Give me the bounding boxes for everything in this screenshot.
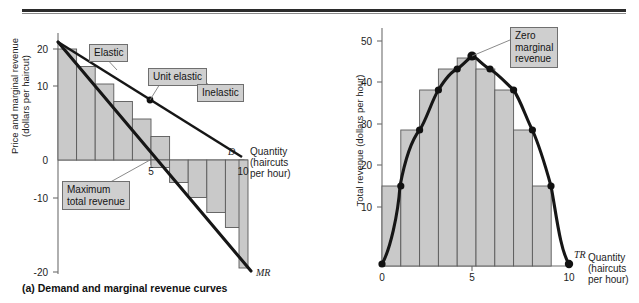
panel-a-ytick-10: 10 [37,81,49,92]
panel-a-x-axis-title: Quantity (haircuts per hour) [250,146,291,179]
panel-b-xtick-0: 0 [379,272,385,283]
panel-b-y-axis-title: Total revenue (dollars per hour) [354,46,365,236]
panel-a-demand-curve-label: D [227,146,236,157]
panel-a-mr-curve-label: MR [255,267,270,278]
callout-inelastic: Inelastic [197,84,244,102]
callout-zero-marginal-revenue: Zero marginal revenue [510,27,558,68]
panel-a-ytick-neg10: -10 [34,193,49,204]
panel-a-xtick-5: 5 [148,166,154,177]
panel-b-tr-curve-label: TR [574,249,586,260]
panel-a-demand-marginal-revenue: 20 10 0 -10 -20 5 10 D MR Price and marg… [0,0,319,303]
callout-unit-elastic: Unit elastic [148,68,207,86]
figure-container: 20 10 0 -10 -20 5 10 D MR Price and marg… [0,0,639,303]
panel-a-y-axis-title: Price and marginal revenue (dollars per … [9,36,31,156]
panel-a-ytick-neg20: -20 [34,267,49,278]
panel-a-ytick-20: 20 [37,44,49,55]
panel-b-xtick-10: 10 [563,272,575,283]
panel-a-xtick-10: 10 [237,166,249,177]
panel-a-caption: (a) Demand and marginal revenue curves [22,282,227,294]
panel-a-ytick-0: 0 [42,155,48,166]
callout-maximum-total-revenue: Maximum total revenue [62,181,130,210]
panel-b-total-revenue: 50 40 30 20 10 0 5 10 TR Total revenue (… [320,0,639,303]
panel-b-x-axis-title: Quantity (haircuts per hour) [588,252,629,285]
panel-b-xtick-5: 5 [469,272,475,283]
callout-elastic: Elastic [89,44,128,62]
